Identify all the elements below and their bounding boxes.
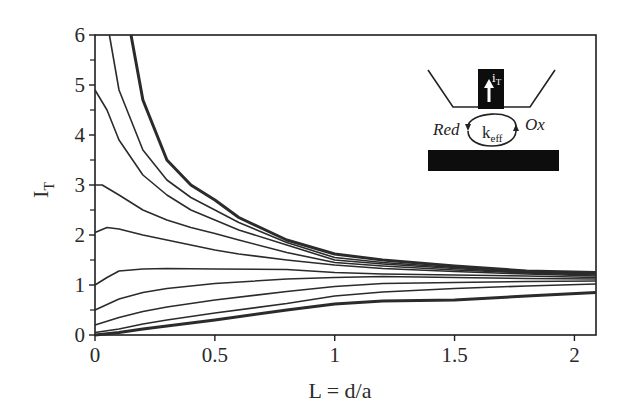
red-arrow-icon: [465, 124, 471, 131]
y-axis-ticks: 0123456: [75, 23, 96, 347]
data-series-10: [95, 293, 596, 336]
x-tick-label: 1: [329, 343, 340, 367]
y-axis-title: IT: [28, 182, 57, 198]
ox-label: Ox: [525, 115, 545, 134]
y-tick-label: 4: [75, 123, 86, 147]
x-axis-ticks: 00.511.52: [90, 335, 580, 367]
y-tick-label: 5: [75, 73, 86, 97]
inset-diagram: iT Red Ox keff: [428, 69, 559, 171]
red-label: Red: [432, 120, 460, 139]
ox-arrow-icon: [513, 124, 519, 131]
tip-label-sub: T: [496, 77, 502, 87]
y-axis-title-main: I: [28, 191, 53, 198]
x-axis-title: L = d/a: [309, 378, 372, 403]
y-tick-label: 1: [75, 273, 86, 297]
x-tick-label: 0: [90, 343, 101, 367]
keff-sub: eff: [491, 132, 503, 144]
y-tick-label: 2: [75, 223, 86, 247]
tip-electrode: [478, 69, 504, 109]
x-tick-label: 1.5: [441, 343, 467, 367]
y-tick-label: 6: [75, 23, 86, 47]
svg-text:IT: IT: [28, 182, 57, 198]
chart: 0123456 00.511.52 L = d/a IT iT Red Ox k…: [0, 0, 632, 417]
curves: [95, 35, 596, 335]
x-tick-label: 0.5: [202, 343, 228, 367]
y-axis-title-sub: T: [42, 182, 57, 191]
y-tick-label: 0: [75, 323, 86, 347]
svg-text:keff: keff: [482, 123, 503, 144]
substrate: [428, 150, 559, 171]
x-tick-label: 2: [569, 343, 580, 367]
y-tick-label: 3: [75, 173, 86, 197]
plot-frame: [95, 35, 596, 335]
